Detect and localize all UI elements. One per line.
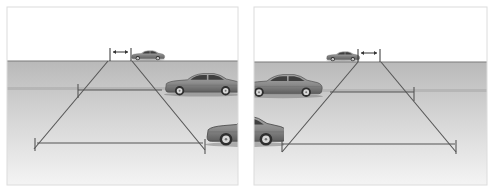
sky — [254, 7, 487, 62]
sky — [7, 7, 238, 61]
diagram-canvas — [0, 0, 494, 194]
blind-spot-diagram — [0, 0, 494, 194]
